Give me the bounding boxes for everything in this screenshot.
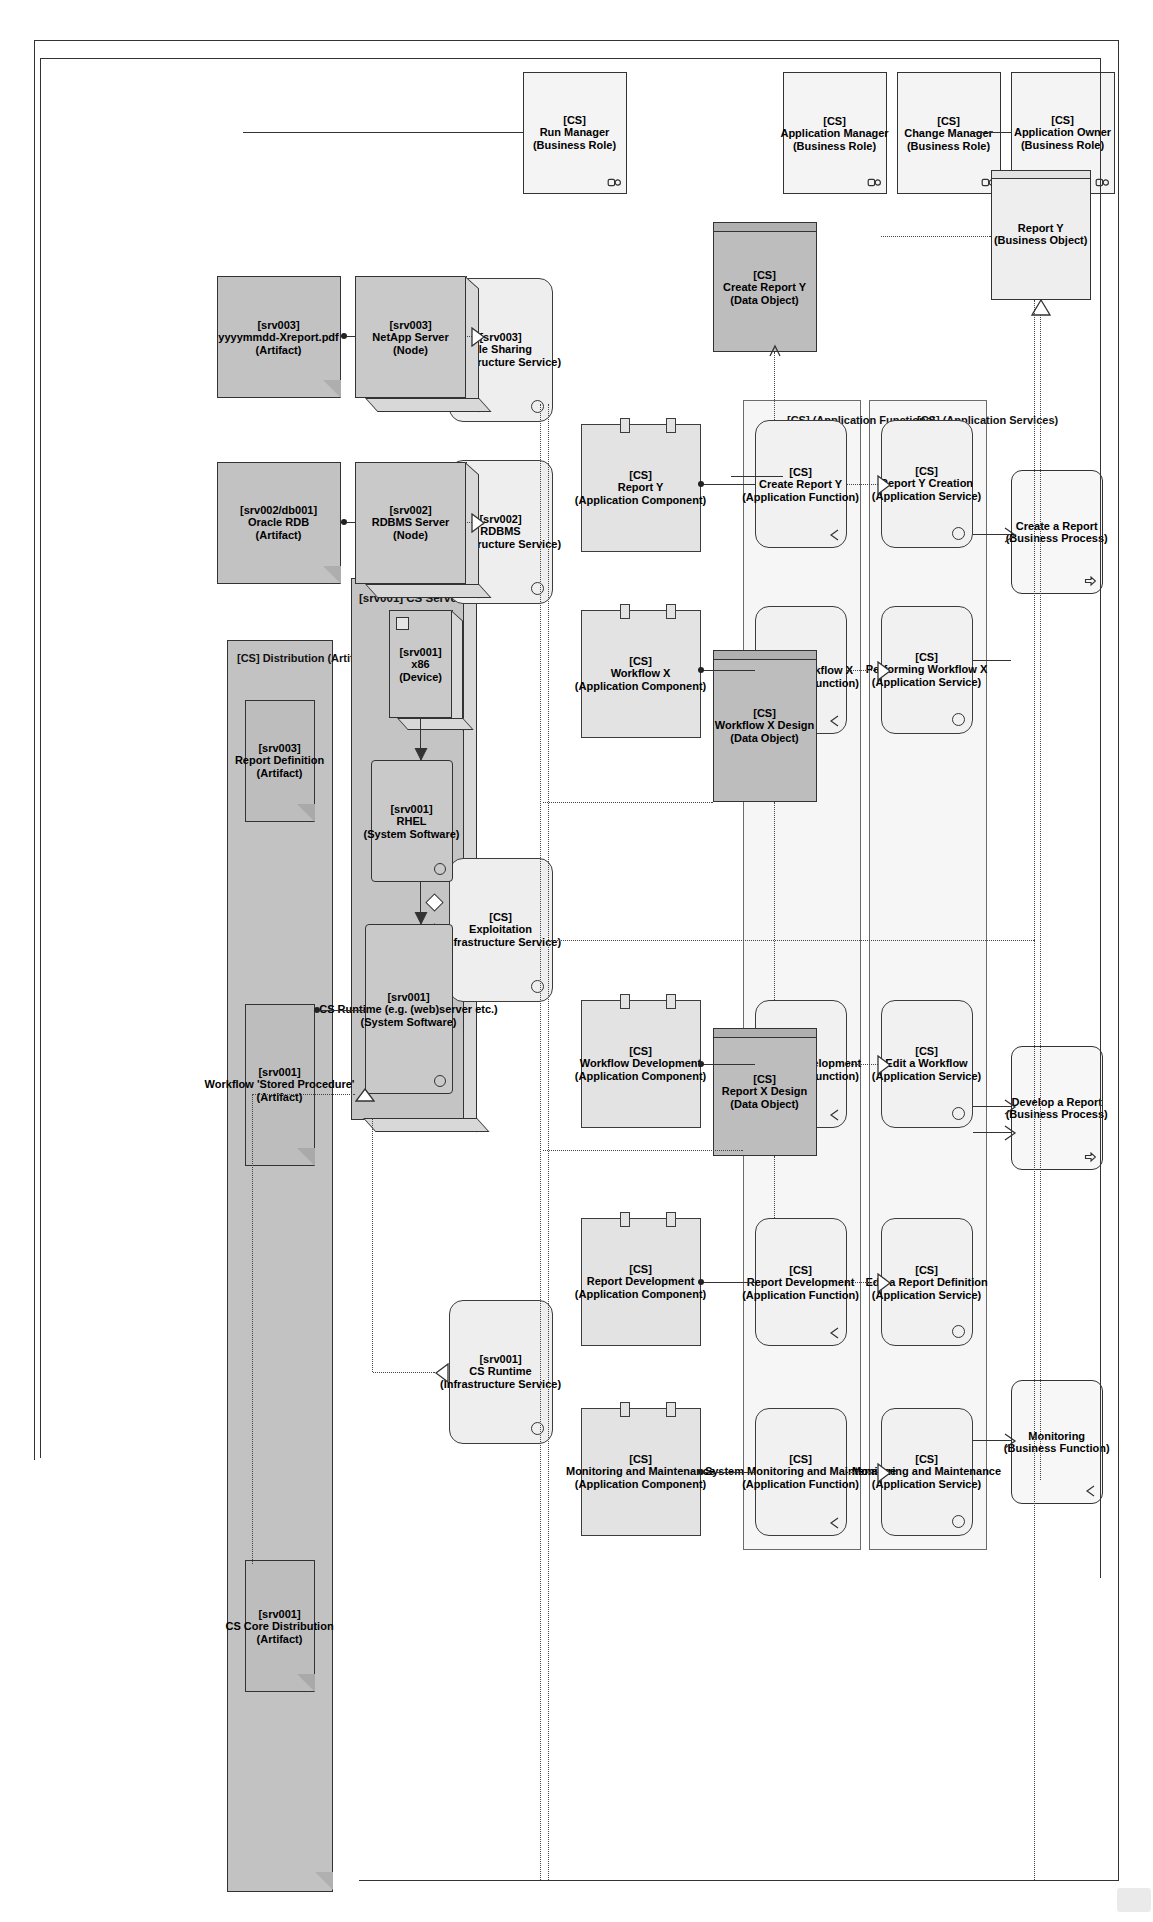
- group-application-functions: [743, 400, 861, 1550]
- realization-arrowhead: [877, 661, 891, 681]
- dogear-icon: [297, 1674, 315, 1692]
- component-tab-icon: [666, 1402, 676, 1417]
- route-inner-left: [41, 58, 1101, 59]
- device-x86[interactable]: [srv001] x86 (Device): [389, 610, 453, 718]
- connector-assign-cmp-2: [701, 670, 755, 671]
- component-tab-icon: [620, 1212, 630, 1227]
- route-outer-right: [359, 1880, 1119, 1881]
- artifact-cs-core-distribution[interactable]: [srv001] CS Core Distribution (Artifact): [245, 1560, 315, 1692]
- service-icon: [531, 1422, 544, 1435]
- application-function-create-report-y[interactable]: [CS] Create Report Y (Application Functi…: [755, 420, 847, 548]
- data-object-report-x-design[interactable]: [CS] Report X Design (Data Object): [713, 1028, 817, 1156]
- application-component-workflow-development[interactable]: [CS] Workflow Development (Application C…: [581, 1000, 701, 1128]
- connector-infra-3c: [372, 1118, 373, 1372]
- dogear-icon: [297, 1148, 315, 1166]
- business-process-create-a-report[interactable]: Create a Report (Business Process): [1011, 470, 1103, 594]
- connector-realize-1: [847, 484, 881, 485]
- assignment-ball-icon: [698, 667, 704, 673]
- assignment-ball-icon: [698, 1061, 704, 1067]
- service-icon: [531, 400, 544, 413]
- application-function-system-monitoring-and-maintenance[interactable]: [CS] System Monitoring and Maintenance (…: [755, 1408, 847, 1536]
- object-bar: [714, 651, 816, 660]
- dogear-icon: [297, 804, 315, 822]
- component-tab-icon: [620, 994, 630, 1009]
- data-object-workflow-x-design[interactable]: [CS] Workflow X Design (Data Object): [713, 650, 817, 802]
- function-icon: [828, 715, 840, 727]
- application-service-edit-a-workflow[interactable]: [CS] Edit a Workflow (Application Servic…: [881, 1000, 973, 1128]
- connector-dist-realize: [252, 1094, 253, 1564]
- assignment-ball-icon: [341, 519, 347, 525]
- service-icon: [952, 713, 965, 726]
- application-component-report-development[interactable]: [CS] Report Development (Application Com…: [581, 1218, 701, 1346]
- artifact-workflow-stored-procedure[interactable]: [srv001] Workflow 'Stored Procedure' (Ar…: [245, 1004, 315, 1166]
- connector-access-1: [774, 352, 775, 420]
- business-role-run-manager[interactable]: [CS] Run Manager (Business Role): [523, 72, 627, 194]
- assignment-arrowhead: [414, 746, 428, 762]
- route-inner-top: [1100, 58, 1101, 1578]
- assignment-ball-icon: [698, 481, 704, 487]
- assignment-ball-icon: [698, 1469, 704, 1475]
- route-dotted-v2: [543, 1150, 743, 1151]
- system-software-cs-runtime[interactable]: [srv001] CS Runtime (e.g. (web)server et…: [365, 924, 453, 1094]
- dogear-icon: [315, 1872, 333, 1890]
- device-screen-icon: [396, 617, 409, 630]
- application-component-workflow-x[interactable]: [CS] Workflow X (Application Component): [581, 610, 701, 738]
- scan-artifact: [1117, 1888, 1151, 1912]
- function-icon: [828, 1327, 840, 1339]
- connector-realize-4: [847, 1282, 881, 1283]
- route-dotted-v1: [549, 940, 1035, 941]
- infrastructure-service-cs-runtime[interactable]: [srv001] CS Runtime (Infrastructure Serv…: [449, 1300, 553, 1444]
- diagram-canvas-rotor: [CS] (Application Services) [CS] (Applic…: [0, 0, 1153, 1922]
- route-outer-left: [35, 40, 1119, 41]
- application-service-performing-workflow-x[interactable]: [CS] Performing Workflow X (Application …: [881, 606, 973, 734]
- object-bar: [714, 223, 816, 232]
- diagram-canvas: [CS] (Application Services) [CS] (Applic…: [0, 0, 1153, 1922]
- connector-access-3: [774, 1156, 775, 1218]
- realization-arrowhead: [877, 475, 891, 495]
- component-tab-icon: [620, 418, 630, 433]
- device-top-face: [451, 610, 463, 731]
- actor-icon: [867, 177, 881, 188]
- application-function-report-development[interactable]: [CS] Report Development (Application Fun…: [755, 1218, 847, 1346]
- infrastructure-service-exploitation[interactable]: [CS] Exploitation (Infrastructure Servic…: [449, 858, 553, 1002]
- application-service-edit-a-report-definition[interactable]: [CS] Edit a Report Definition (Applicati…: [881, 1218, 973, 1346]
- application-component-report-y[interactable]: [CS] Report Y (Application Component): [581, 424, 701, 552]
- component-tab-icon: [666, 994, 676, 1009]
- system-software-icon: [434, 1075, 446, 1087]
- assignment-ball-icon: [341, 333, 347, 339]
- connector-realize-2: [847, 670, 881, 671]
- node-rdbms-server[interactable]: [srv002] RDBMS Server (Node): [355, 462, 467, 584]
- component-tab-icon: [620, 604, 630, 619]
- connector-assign-cmp-1: [701, 484, 755, 485]
- realization-arrowhead: [877, 1273, 891, 1293]
- data-object-create-report-y[interactable]: [CS] Create Report Y (Data Object): [713, 222, 817, 352]
- route-create-report-2: [973, 660, 1011, 661]
- dogear-icon: [323, 380, 341, 398]
- service-icon: [952, 1515, 965, 1528]
- connector-assignment: [973, 132, 1011, 133]
- group-application-services: [869, 400, 987, 1550]
- object-bar: [714, 1029, 816, 1038]
- business-function-monitoring[interactable]: Monitoring (Business Function): [1011, 1380, 1103, 1504]
- realization-arrowhead: [355, 1088, 375, 1102]
- connector-realize-3: [847, 1064, 881, 1065]
- access-arrowhead: [768, 344, 782, 358]
- node-side-face: [363, 1118, 490, 1132]
- service-icon: [531, 980, 544, 993]
- serving-arrowhead: [1003, 1124, 1017, 1142]
- connector-access-2: [774, 802, 775, 1000]
- component-tab-icon: [666, 1212, 676, 1227]
- route-create-report-1: [973, 534, 1011, 535]
- connector-realization: [1040, 300, 1041, 1480]
- function-icon: [828, 1517, 840, 1529]
- function-icon: [1084, 1485, 1096, 1497]
- assignment-arrowhead: [414, 910, 428, 926]
- node-netapp-server[interactable]: [srv003] NetApp Server (Node): [355, 276, 467, 398]
- business-process-develop-a-report[interactable]: Develop a Report (Business Process): [1011, 1046, 1103, 1170]
- application-service-report-y-creation[interactable]: [CS] Report Y Creation (Application Serv…: [881, 420, 973, 548]
- business-role-application-manager[interactable]: [CS] Application Manager (Business Role): [783, 72, 887, 194]
- business-object-report-y[interactable]: Report Y (Business Object): [991, 170, 1091, 300]
- connector-assignment: [731, 476, 783, 477]
- system-software-rhel[interactable]: [srv001] RHEL (System Software): [371, 760, 453, 882]
- application-component-monitoring-and-maintenance[interactable]: [CS] Monitoring and Maintenance (Applica…: [581, 1408, 701, 1536]
